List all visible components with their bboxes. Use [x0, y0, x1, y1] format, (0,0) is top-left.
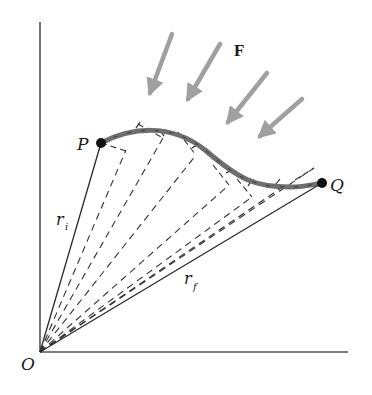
radial-dashed-lines [40, 138, 314, 352]
r-initial-subscript: i [65, 221, 68, 232]
force-arrow-icon [228, 73, 267, 122]
force-arrows [150, 34, 302, 136]
particle-path [101, 130, 322, 187]
origin-label: O [21, 354, 35, 374]
force-label: F [234, 41, 244, 60]
point-q [317, 178, 327, 188]
point-p [96, 138, 106, 148]
force-arrow-icon [150, 34, 172, 93]
r-final-subscript: f [192, 281, 199, 292]
point-p-label: P [76, 134, 89, 154]
force-arrow-icon [260, 99, 302, 136]
point-q-label: Q [330, 175, 344, 195]
work-path-diagram: F P Q O r i r f [0, 0, 372, 395]
r-initial-label: r [56, 210, 65, 229]
force-arrow-icon [188, 44, 220, 99]
r-final-label: r [184, 269, 193, 288]
